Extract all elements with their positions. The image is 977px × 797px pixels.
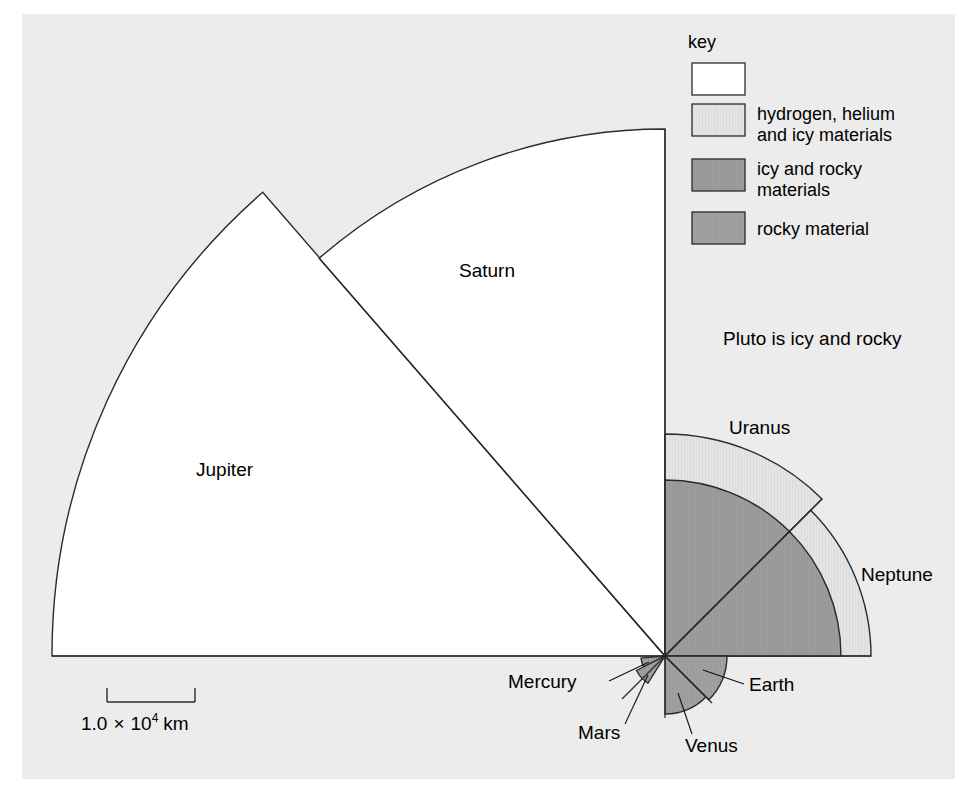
- planet-size-diagram: Jupiter Saturn Uranus Neptune Mercury Ma…: [0, 0, 977, 797]
- key-label-hydrogen-helium-icy-line2: and icy materials: [757, 125, 892, 145]
- label-saturn: Saturn: [459, 260, 515, 281]
- label-earth: Earth: [749, 674, 794, 695]
- scale-bar-label: 1.0×104km: [81, 711, 189, 734]
- label-venus: Venus: [685, 735, 738, 756]
- key-label-hydrogen-helium-icy-line1: hydrogen, helium: [757, 104, 895, 124]
- key-label-rocky: rocky material: [757, 219, 869, 239]
- label-mars: Mars: [578, 722, 620, 743]
- scale-exponent: 4: [152, 711, 159, 725]
- swatch-hydrogen-helium: [692, 63, 745, 95]
- swatch-icy-rocky: [692, 159, 745, 191]
- swatch-hydrogen-helium-icy: [692, 104, 745, 136]
- key-label-icy-rocky-line2: materials: [757, 180, 830, 200]
- label-mercury: Mercury: [508, 671, 577, 692]
- swatch-rocky: [692, 212, 745, 244]
- scale-bar: [107, 688, 195, 702]
- scale-base: 10: [131, 713, 152, 734]
- label-uranus: Uranus: [729, 417, 790, 438]
- key-title: key: [688, 32, 716, 52]
- pluto-note: Pluto is icy and rocky: [723, 328, 902, 349]
- key-label-icy-rocky-line1: icy and rocky: [757, 159, 862, 179]
- label-neptune: Neptune: [861, 564, 933, 585]
- figure-page: Jupiter Saturn Uranus Neptune Mercury Ma…: [0, 0, 977, 797]
- scale-times: ×: [113, 713, 124, 734]
- label-jupiter: Jupiter: [196, 459, 254, 480]
- scale-unit: km: [163, 713, 188, 734]
- scale-value: 1.0: [81, 713, 107, 734]
